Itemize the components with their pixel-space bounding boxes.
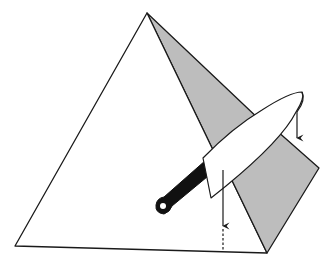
diagram-canvas: Cutting a pyramid-shaped cake with a kni… <box>0 0 335 266</box>
handle-ring-icon <box>160 203 166 209</box>
pyramid-cut-illustration <box>0 0 335 266</box>
